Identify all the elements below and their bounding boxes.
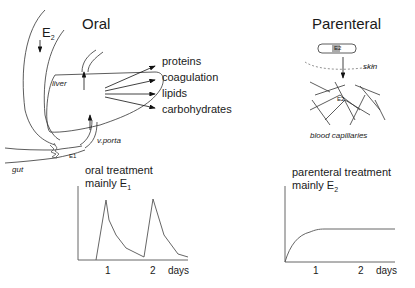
oral-chart-caption-1: oral treatment bbox=[85, 165, 153, 176]
e1-label: E1 bbox=[69, 153, 76, 159]
parenteral-x-label: days bbox=[376, 266, 397, 276]
oral-x-label: days bbox=[168, 266, 189, 276]
capillary-e2-label: E2 bbox=[337, 96, 344, 102]
e2-label: E2 bbox=[42, 26, 55, 41]
oral-x-tick-1: 1 bbox=[105, 266, 111, 276]
effect-lipids: lipids bbox=[162, 88, 187, 99]
parenteral-x-tick-2: 2 bbox=[358, 266, 364, 276]
effect-coagulation: coagulation bbox=[162, 72, 218, 83]
diagram-canvas bbox=[0, 0, 415, 288]
liver-label: liver bbox=[52, 80, 67, 88]
oral-chart bbox=[78, 186, 188, 260]
parenteral-chart-caption-2: mainly E2 bbox=[292, 180, 338, 193]
oral-title: Oral bbox=[82, 16, 110, 31]
effect-carbohydrates: carbohydrates bbox=[162, 104, 232, 115]
parenteral-title: Parenteral bbox=[312, 16, 381, 31]
capillary-label: blood capillaries bbox=[310, 132, 367, 140]
portal-vein-label: v.porta bbox=[97, 137, 121, 145]
parenteral-anatomy bbox=[305, 44, 385, 125]
parenteral-chart-caption-1: parenteral treatment bbox=[292, 167, 391, 178]
oral-chart-caption-2: mainly E1 bbox=[85, 178, 131, 191]
effect-proteins: proteins bbox=[162, 56, 201, 67]
parenteral-chart bbox=[285, 186, 395, 262]
gut-label: gut bbox=[12, 166, 23, 174]
patch-label: E2 bbox=[334, 45, 341, 51]
oral-x-tick-2: 2 bbox=[150, 266, 156, 276]
parenteral-x-tick-1: 1 bbox=[313, 266, 319, 276]
skin-label: skin bbox=[363, 63, 377, 71]
